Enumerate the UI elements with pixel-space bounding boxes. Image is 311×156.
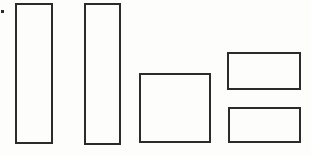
tall-rectangle-1 (15, 3, 53, 144)
tall-rectangle-2 (84, 3, 121, 145)
wide-rectangle-bottom (228, 107, 301, 143)
wide-rectangle-top (227, 52, 301, 90)
stray-ink-dot (1, 10, 4, 13)
square-rectangle (139, 73, 211, 143)
figure-canvas (0, 0, 311, 156)
